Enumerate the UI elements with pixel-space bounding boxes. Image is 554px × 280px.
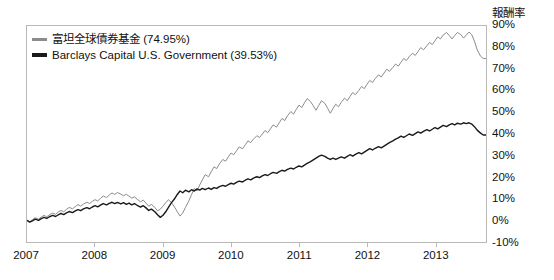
x-tick-mark xyxy=(367,243,368,247)
x-tick-mark xyxy=(436,243,437,247)
x-tick-mark xyxy=(94,243,95,247)
x-tick-label: 2008 xyxy=(81,249,107,261)
x-tick-mark xyxy=(231,243,232,247)
x-tick-label: 2012 xyxy=(355,249,381,261)
x-axis: 2007200820092010201120122013 xyxy=(0,0,554,280)
x-tick-label: 2011 xyxy=(287,249,312,261)
x-tick-mark xyxy=(163,243,164,247)
x-tick-label: 2010 xyxy=(218,249,244,261)
return-comparison-chart: 富坦全球債券基金 (74.95%) Barclays Capital U.S. … xyxy=(0,0,554,280)
x-tick-label: 2007 xyxy=(13,249,39,261)
x-tick-label: 2013 xyxy=(423,249,449,261)
x-tick-mark xyxy=(299,243,300,247)
x-tick-label: 2009 xyxy=(150,249,176,261)
